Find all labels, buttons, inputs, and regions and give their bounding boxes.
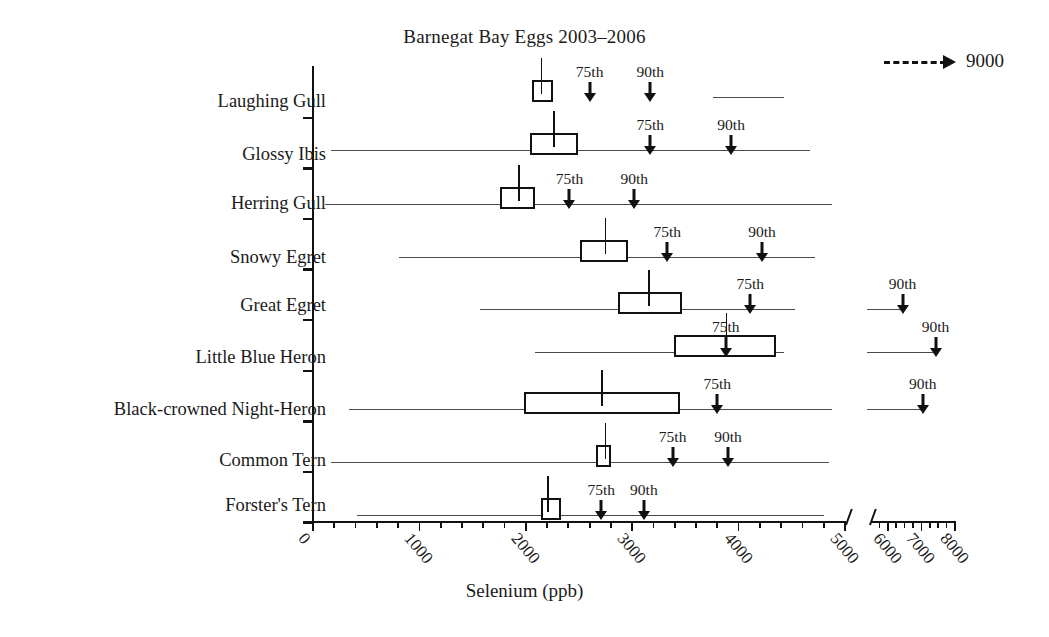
legend-label: 9000 [966, 50, 1004, 72]
x-axis-minor-tick [589, 521, 591, 528]
box-7 [596, 445, 611, 467]
percentile-marker-label: 90th [630, 481, 658, 499]
percentile-marker-label: 75th [704, 375, 732, 393]
axis-break-mark-left [845, 509, 853, 526]
percentile-marker-label: 90th [889, 275, 917, 293]
x-axis-minor-tick [333, 521, 335, 528]
box-4 [618, 292, 682, 314]
y-axis-label-8: Forster's Tern [225, 496, 326, 515]
arrow-down-icon [595, 511, 607, 520]
x-axis-minor-tick [695, 521, 697, 528]
percentile-marker-label: 75th [576, 63, 604, 81]
arrow-down-icon [638, 511, 650, 520]
x-axis-tick-label-8000: 8000 [936, 529, 973, 568]
arrow-down-icon [744, 305, 756, 314]
x-axis-minor-tick [461, 521, 463, 528]
box-8 [541, 498, 561, 520]
chart-canvas: Barnegat Bay Eggs 2003–2006 9000 Seleniu… [0, 0, 1049, 637]
y-axis-label-0: Laughing Gull [218, 92, 326, 111]
x-axis-minor-tick [376, 521, 378, 528]
x-axis-minor-tick [653, 521, 655, 528]
y-axis-tick-6 [303, 420, 314, 422]
percentile-marker-label: 75th [588, 481, 616, 499]
percentile-marker-label: 75th [737, 275, 765, 293]
range-line-upper-6 [867, 409, 923, 410]
percentile-marker-label: 90th [621, 170, 649, 188]
arrow-down-icon [644, 93, 656, 102]
y-axis-tick-0 [303, 117, 314, 119]
x-axis-tick-6000 [887, 521, 889, 531]
x-axis-minor-tick [823, 521, 825, 528]
chart-title: Barnegat Bay Eggs 2003–2006 [0, 26, 1049, 48]
y-axis-tick-7 [303, 471, 314, 473]
median-whisker-3 [605, 218, 607, 254]
y-axis-tick-5 [303, 370, 314, 372]
range-line-0 [713, 97, 784, 98]
percentile-marker-label: 90th [748, 223, 776, 241]
percentile-marker-label: 90th [717, 116, 745, 134]
arrow-down-icon [584, 93, 596, 102]
arrow-down-icon [628, 200, 640, 209]
x-axis-minor-tick [397, 521, 399, 528]
arrow-down-icon [644, 146, 656, 155]
percentile-marker-label: 75th [637, 116, 665, 134]
x-axis-tick-5000 [844, 521, 846, 531]
median-whisker-7 [605, 423, 607, 459]
box-0 [532, 80, 553, 102]
dashed-arrow-line-icon [884, 61, 946, 64]
range-line-2 [325, 204, 833, 205]
y-axis-label-6: Black-crowned Night-Heron [114, 400, 326, 419]
x-axis-minor-tick [504, 521, 506, 528]
median-whisker-2 [518, 165, 520, 201]
y-axis-label-3: Snowy Egret [230, 248, 326, 267]
x-axis-minor-tick [895, 521, 897, 528]
x-axis-minor-tick [904, 521, 906, 528]
arrow-down-icon [917, 405, 929, 414]
percentile-marker-label: 75th [659, 428, 687, 446]
x-axis-tick-0 [312, 521, 314, 531]
y-axis-label-2: Herring Gull [231, 194, 326, 213]
median-whisker-0 [541, 58, 543, 94]
x-axis-minor-tick [716, 521, 718, 528]
range-line-8 [357, 515, 824, 516]
arrow-down-icon [711, 405, 723, 414]
x-axis-minor-tick [802, 521, 804, 528]
x-axis-title: Selenium (ppb) [0, 580, 1049, 602]
arrow-down-icon [756, 253, 768, 262]
arrow-down-icon [563, 200, 575, 209]
x-axis-minor-tick [946, 521, 948, 528]
x-axis-minor-tick [937, 521, 939, 528]
x-axis-tick-label-3000: 3000 [613, 529, 650, 568]
x-axis-minor-tick [912, 521, 914, 528]
percentile-marker-label: 75th [556, 170, 584, 188]
x-axis-minor-tick [355, 521, 357, 528]
x-axis-tick-8000 [954, 521, 956, 531]
x-axis-tick-label-2000: 2000 [506, 529, 543, 568]
arrow-down-icon [725, 146, 737, 155]
y-axis-label-5: Little Blue Heron [196, 348, 327, 367]
arrow-down-icon [667, 458, 679, 467]
percentile-marker-label: 90th [714, 428, 742, 446]
y-axis-tick-2 [303, 218, 314, 220]
range-line-7 [331, 462, 829, 463]
legend: 9000 [884, 50, 1049, 76]
percentile-marker-label: 90th [909, 375, 937, 393]
y-axis-label-7: Common Tern [219, 451, 326, 470]
y-axis-tick-3 [303, 268, 314, 270]
arrow-down-icon [722, 458, 734, 467]
median-whisker-6 [601, 370, 603, 406]
y-axis-tick-4 [303, 319, 314, 321]
x-axis-tick-label-7000: 7000 [902, 529, 939, 568]
y-axis-label-4: Great Egret [240, 296, 326, 315]
x-axis-tick-7000 [921, 521, 923, 531]
x-axis-minor-tick [879, 521, 881, 528]
percentile-marker-label: 75th [654, 223, 682, 241]
x-axis-minor-tick [482, 521, 484, 528]
percentile-marker-label: 90th [922, 318, 950, 336]
arrow-down-icon [897, 305, 909, 314]
arrow-down-icon [930, 348, 942, 357]
x-axis-tick-label-0: 0 [294, 529, 315, 548]
y-axis-label-1: Glossy Ibis [242, 145, 326, 164]
arrow-head-icon [943, 55, 956, 69]
x-axis-tick-1000 [419, 521, 421, 531]
